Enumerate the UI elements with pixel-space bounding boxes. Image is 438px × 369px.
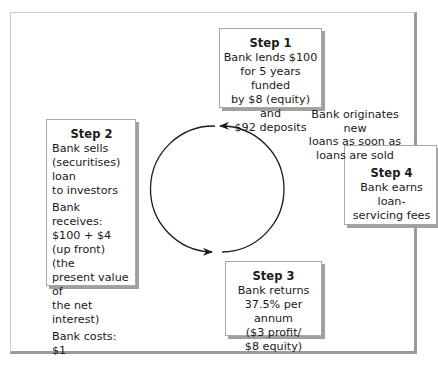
step-2-line: (securitises) loan bbox=[52, 156, 131, 184]
step-2-box: Step 2 Bank sells (securitises) loan to … bbox=[46, 119, 136, 286]
note-line: loans are sold bbox=[305, 149, 405, 163]
note-line: loans as soon as bbox=[305, 135, 405, 149]
cycle-arrow-left bbox=[151, 126, 215, 252]
step-3-title: Step 3 bbox=[226, 269, 321, 283]
step-2-line: Bank receives: bbox=[52, 201, 131, 229]
cycle-arrow-right bbox=[220, 126, 284, 252]
step-3-box: Step 3 Bank returns 37.5% per annum ($3 … bbox=[225, 261, 322, 336]
origination-note: Bank originates new loans as soon as loa… bbox=[305, 108, 405, 162]
step-4-line: servicing fees bbox=[345, 209, 438, 223]
step-2-line: present value of bbox=[52, 271, 131, 299]
step-3-line: $8 equity) bbox=[226, 340, 321, 354]
step-1-title: Step 1 bbox=[220, 36, 321, 50]
step-1-box: Step 1 Bank lends $100 for 5 years funde… bbox=[219, 28, 322, 108]
step-4-line: Bank earns loan- bbox=[345, 181, 438, 209]
step-3-line: Bank returns bbox=[226, 284, 321, 298]
step-2-title: Step 2 bbox=[52, 127, 131, 141]
step-1-line: Bank lends $100 bbox=[220, 51, 321, 65]
step-4-title: Step 4 bbox=[345, 166, 438, 180]
step-2-line: Bank sells bbox=[52, 142, 131, 156]
step-2-line: Bank costs: $1 bbox=[52, 330, 131, 358]
step-3-line: 37.5% per annum bbox=[226, 298, 321, 326]
step-2-line: to investors bbox=[52, 184, 131, 198]
step-2-line: $100 + $4 bbox=[52, 229, 131, 243]
step-2-line: the net interest) bbox=[52, 299, 131, 327]
note-line: Bank originates new bbox=[305, 108, 405, 135]
step-1-line: for 5 years funded bbox=[220, 65, 321, 93]
step-3-line: ($3 profit/ bbox=[226, 326, 321, 340]
step-2-line: (up front) (the bbox=[52, 243, 131, 271]
